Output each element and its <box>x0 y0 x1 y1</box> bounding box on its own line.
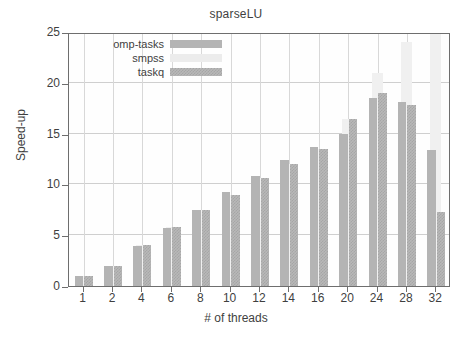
bar-taskq <box>378 93 387 286</box>
y-tick-label: 20 <box>20 76 60 90</box>
bar-taskq <box>407 105 416 286</box>
bar-taskq <box>202 210 211 286</box>
x-tick-mark <box>171 287 172 292</box>
legend-label-1: smpss <box>132 52 164 64</box>
y-tick-label: 0 <box>20 279 60 293</box>
legend-label-0: omp-tasks <box>113 38 164 50</box>
x-tick-mark <box>377 287 378 292</box>
x-tick-label: 8 <box>185 291 215 305</box>
bar-taskq <box>290 164 299 286</box>
x-axis-label: # of threads <box>0 311 472 325</box>
x-tick-label: 2 <box>97 291 127 305</box>
x-tick-mark <box>288 287 289 292</box>
bar-omp-tasks <box>222 192 231 286</box>
x-tick-mark <box>435 287 436 292</box>
bar-taskq <box>231 195 240 286</box>
legend-item-2: taskq <box>82 65 222 78</box>
x-tick-label: 1 <box>68 291 98 305</box>
bar-taskq <box>114 266 123 286</box>
bar-omp-tasks <box>310 147 319 286</box>
bar-taskq <box>261 178 270 286</box>
x-tick-label: 28 <box>391 291 421 305</box>
x-tick-label: 24 <box>362 291 392 305</box>
legend-item-0: omp-tasks <box>82 37 222 50</box>
x-tick-label: 20 <box>332 291 362 305</box>
bar-taskq <box>319 149 328 286</box>
bar-omp-tasks <box>251 176 260 286</box>
x-tick-mark <box>406 287 407 292</box>
bar-omp-tasks <box>192 210 201 286</box>
bar-omp-tasks <box>339 134 348 286</box>
chart-legend: omp-tasks smpss taskq <box>82 37 222 79</box>
bar-omp-tasks <box>369 98 378 286</box>
y-tick-label: 10 <box>20 177 60 191</box>
x-tick-mark <box>230 287 231 292</box>
x-tick-mark <box>83 287 84 292</box>
bar-taskq <box>437 212 446 286</box>
bar-taskq <box>349 119 358 286</box>
bar-omp-tasks <box>75 276 84 286</box>
y-tick-mark <box>62 287 68 288</box>
legend-swatch-omp-tasks <box>170 40 222 48</box>
x-tick-label: 6 <box>156 291 186 305</box>
chart-root: sparseLU Speed-up # of threads 051015202… <box>0 0 472 338</box>
chart-title: sparseLU <box>0 7 472 21</box>
x-tick-mark <box>347 287 348 292</box>
x-tick-mark <box>200 287 201 292</box>
bar-taskq <box>84 276 93 286</box>
grid-line-y <box>69 133 449 134</box>
y-tick-label: 15 <box>20 127 60 141</box>
x-tick-mark <box>141 287 142 292</box>
x-tick-label: 10 <box>215 291 245 305</box>
legend-swatch-smpss <box>170 54 222 62</box>
x-tick-label: 12 <box>244 291 274 305</box>
bar-omp-tasks <box>427 150 436 286</box>
y-tick-label: 5 <box>20 228 60 242</box>
legend-label-2: taskq <box>138 66 164 78</box>
bar-omp-tasks <box>133 246 142 286</box>
y-tick-label: 25 <box>20 25 60 39</box>
bar-omp-tasks <box>104 266 113 286</box>
x-tick-label: 14 <box>273 291 303 305</box>
bar-omp-tasks <box>163 228 172 286</box>
legend-item-1: smpss <box>82 51 222 64</box>
grid-line-y <box>69 82 449 83</box>
x-tick-label: 4 <box>126 291 156 305</box>
x-tick-mark <box>318 287 319 292</box>
x-tick-label: 16 <box>303 291 333 305</box>
bar-taskq <box>172 227 181 286</box>
x-tick-mark <box>112 287 113 292</box>
x-tick-label: 32 <box>420 291 450 305</box>
legend-swatch-taskq <box>170 68 222 76</box>
bar-omp-tasks <box>280 160 289 286</box>
bar-taskq <box>143 245 152 286</box>
x-tick-mark <box>259 287 260 292</box>
bar-omp-tasks <box>398 102 407 286</box>
